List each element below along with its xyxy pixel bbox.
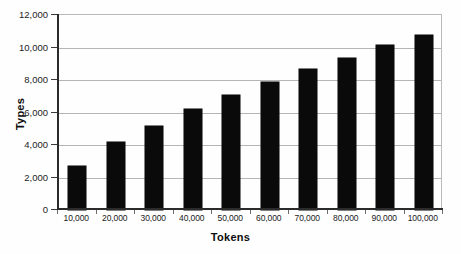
bar — [299, 69, 317, 210]
y-axis-tick-mark — [51, 47, 57, 48]
x-axis-tick-labels: 10,00020,00030,00040,00050,00060,00070,0… — [0, 213, 461, 231]
x-axis-tick-mark — [134, 210, 135, 214]
bar-chart-figure: Types 02,0004,0006,0008,00010,00012,000 … — [0, 0, 461, 254]
bar — [184, 109, 202, 210]
plot-area — [57, 14, 442, 209]
y-axis-tick-label: 4,000 — [24, 139, 48, 150]
y-axis-tick-mark — [51, 144, 57, 145]
bar — [222, 95, 240, 210]
x-axis-tick-label: 90,000 — [372, 213, 397, 223]
x-axis-tick-label: 10,000 — [64, 213, 89, 223]
x-axis-tick-label: 70,000 — [295, 213, 320, 223]
y-axis-tick-label: 8,000 — [24, 74, 48, 85]
x-axis-tick-mark — [404, 210, 405, 214]
x-axis-tick-mark — [211, 210, 212, 214]
y-axis-tick-mark — [51, 177, 57, 178]
y-axis-line — [57, 14, 59, 210]
y-axis-tick-label: 2,000 — [24, 171, 48, 182]
bar — [107, 142, 125, 210]
x-axis-tick-label: 100,000 — [408, 213, 438, 223]
bars-layer — [58, 15, 443, 210]
bar — [145, 126, 163, 211]
x-axis-tick-label: 50,000 — [218, 213, 243, 223]
x-axis-tick-mark — [57, 210, 58, 214]
x-axis-tick-label: 30,000 — [141, 213, 166, 223]
x-axis-tick-label: 80,000 — [333, 213, 358, 223]
y-axis-tick-mark — [51, 79, 57, 80]
y-axis-tick-mark — [51, 14, 57, 15]
x-axis-tick-mark — [365, 210, 366, 214]
bar — [415, 35, 433, 210]
y-axis-tick-label: 12,000 — [19, 9, 48, 20]
bar — [338, 58, 356, 210]
x-axis-tick-mark — [173, 210, 174, 214]
y-axis-tick-label: 10,000 — [19, 41, 48, 52]
x-axis-tick-label: 60,000 — [256, 213, 281, 223]
y-axis-tick-label: 6,000 — [24, 106, 48, 117]
x-axis-tick-label: 20,000 — [102, 213, 127, 223]
x-axis-tick-mark — [96, 210, 97, 214]
bar — [376, 45, 394, 210]
x-axis-tick-mark — [250, 210, 251, 214]
bar — [68, 166, 86, 210]
bar — [261, 82, 279, 210]
y-axis-tick-mark — [51, 112, 57, 113]
x-axis-tick-mark — [327, 210, 328, 214]
x-axis-tick-mark — [288, 210, 289, 214]
x-axis-title: Tokens — [0, 231, 461, 243]
x-axis-tick-label: 40,000 — [179, 213, 204, 223]
x-axis-tick-mark — [442, 210, 443, 214]
